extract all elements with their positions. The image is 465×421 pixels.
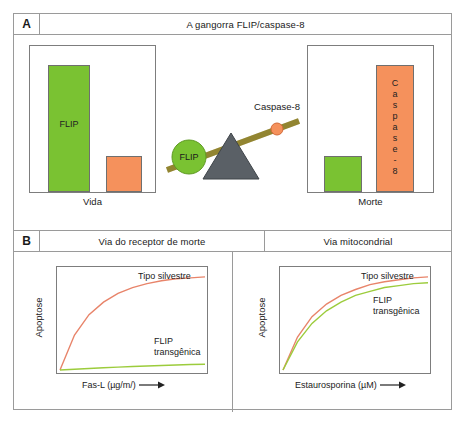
mitochondrial-xlabel-wrap: Estaurosporina (µM) <box>295 380 406 390</box>
panel-a-header: A A gangorra FLIP/caspase-8 <box>14 14 451 35</box>
morte-bar-chart: Caspase-8 <box>307 45 434 193</box>
seesaw-caspase-weight <box>271 123 283 135</box>
death-receptor-transgenic-curve <box>60 364 205 370</box>
vida-caption: Vida <box>29 196 156 207</box>
morte-caspase-bar: Caspase-8 <box>376 65 414 192</box>
panel-b-letter: B <box>14 231 40 251</box>
caspase-label-letter: C <box>377 78 413 89</box>
mitochondrial-chart: Apoptose Tipo silvestre FLIP transgênica <box>233 252 453 412</box>
death-receptor-transgenic-label: FLIP transgênica <box>154 336 201 358</box>
panel-b-body: Apoptose Tipo silvestre FLIP transgênica <box>14 252 451 412</box>
vida-flip-bar-label: FLIP <box>49 119 89 129</box>
panel-a-title: A gangorra FLIP/caspase-8 <box>40 14 451 34</box>
x-axis-arrow-icon <box>139 381 165 389</box>
caspase-label-letter: p <box>377 111 413 122</box>
morte-caspase-bar-label: Caspase-8 <box>377 78 413 177</box>
mitochondrial-transgenic-label-line2: transgênica <box>373 306 420 317</box>
death-receptor-wildtype-label: Tipo silvestre <box>138 271 191 282</box>
mitochondrial-chart-cell: Apoptose Tipo silvestre FLIP transgênica <box>233 252 453 412</box>
death-receptor-xlabel-wrap: Fas-L (µg/m/) <box>82 380 165 390</box>
death-receptor-transgenic-label-line1: FLIP <box>154 336 201 347</box>
morte-caption: Morte <box>307 196 434 207</box>
death-receptor-transgenic-label-line2: transgênica <box>154 347 201 358</box>
death-receptor-ylabel: Apoptose <box>33 286 44 350</box>
caspase-label-letter: a <box>377 89 413 100</box>
death-receptor-chart: Apoptose Tipo silvestre FLIP transgênica <box>14 252 232 412</box>
vida-flip-bar: FLIP <box>48 65 90 192</box>
caspase-label-letter: e <box>377 144 413 155</box>
x-axis-arrow-icon <box>380 381 406 389</box>
seesaw-diagram: FLIP Caspase-8 <box>159 45 307 205</box>
panel-b-right-title: Via mitocondrial <box>265 231 451 251</box>
panel-b: B Via do receptor de morte Via mitocondr… <box>14 230 451 411</box>
panel-a-letter: A <box>14 14 40 34</box>
morte-flip-bar <box>324 156 362 192</box>
caspase-label-letter: s <box>377 133 413 144</box>
figure-frame: A A gangorra FLIP/caspase-8 FLIP Vida Ca… <box>13 13 452 410</box>
caspase-label-letter: a <box>377 122 413 133</box>
seesaw-flip-label: FLIP <box>179 152 198 162</box>
vida-bar-chart: FLIP <box>29 45 156 193</box>
panel-b-header: B Via do receptor de morte Via mitocondr… <box>14 231 451 252</box>
death-receptor-xlabel: Fas-L (µg/m/) <box>82 380 136 390</box>
seesaw-svg: FLIP Caspase-8 <box>159 45 307 205</box>
mitochondrial-plot-frame <box>279 266 431 374</box>
seesaw-caspase-label: Caspase-8 <box>254 101 300 112</box>
vida-caspase-bar <box>106 156 142 192</box>
mitochondrial-transgenic-label-line1: FLIP <box>373 295 420 306</box>
caspase-label-letter: - <box>377 155 413 166</box>
mitochondrial-transgenic-label: FLIP transgênica <box>373 295 420 317</box>
panel-a: A A gangorra FLIP/caspase-8 FLIP Vida Ca… <box>14 14 451 230</box>
mitochondrial-curves <box>280 267 430 373</box>
mitochondrial-ylabel: Apoptose <box>256 286 267 350</box>
mitochondrial-wildtype-curve <box>283 277 428 370</box>
panel-b-left-title: Via do receptor de morte <box>40 231 265 251</box>
panel-a-body: FLIP Vida Caspase-8 Morte <box>14 35 451 230</box>
mitochondrial-xlabel: Estaurosporina (µM) <box>295 380 377 390</box>
caspase-label-letter: 8 <box>377 166 413 177</box>
mitochondrial-wildtype-label: Tipo silvestre <box>361 271 414 282</box>
death-receptor-chart-cell: Apoptose Tipo silvestre FLIP transgênica <box>14 252 233 412</box>
caspase-label-letter: s <box>377 100 413 111</box>
